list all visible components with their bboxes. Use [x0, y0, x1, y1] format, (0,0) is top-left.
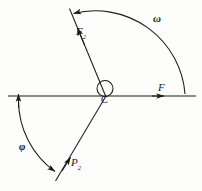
label-force-f2: F2	[76, 26, 86, 40]
label-force-p2-base: P	[71, 156, 78, 168]
label-center-point-c: C	[101, 95, 108, 105]
force-f2-line	[70, 9, 107, 98]
label-angle-phi: φ	[19, 141, 25, 152]
mechanics-diagram-figure: F2 ω F C φ P2	[0, 0, 202, 191]
force-p2-arrowhead	[62, 158, 71, 172]
label-force-f: F	[158, 82, 165, 93]
label-angular-velocity-omega: ω	[153, 13, 161, 24]
label-force-f2-subscript: 2	[83, 33, 86, 40]
label-force-p2-subscript: 2	[78, 164, 81, 171]
label-force-f2-base: F	[76, 25, 83, 37]
omega-arc-path	[74, 11, 186, 94]
phi-arc-path	[18, 100, 55, 172]
label-force-p2: P2	[71, 157, 81, 171]
